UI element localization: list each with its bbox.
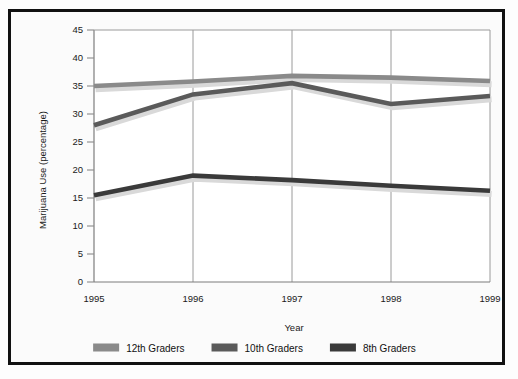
tickmarks-group (87, 30, 94, 282)
line-chart-svg: 051015202530354045 19951996199719981999 … (0, 0, 518, 379)
y-tick-label: 40 (72, 52, 83, 63)
x-tick-label: 1996 (182, 293, 203, 304)
x-tick-label: 1999 (479, 293, 500, 304)
y-axis-title: Marijuana Use (percentage) (37, 111, 48, 229)
x-tick-labels-group: 19951996199719981999 (83, 293, 500, 304)
y-tick-label: 20 (72, 164, 83, 175)
y-tick-labels-group: 051015202530354045 (72, 24, 83, 287)
y-tick-label: 25 (72, 136, 83, 147)
legend-label-1: 12th Graders (126, 343, 184, 354)
x-axis-title: Year (284, 322, 303, 333)
y-tick-label: 5 (78, 248, 83, 259)
y-tick-label: 45 (72, 24, 83, 35)
legend-swatch-3 (330, 344, 356, 352)
legend: 12th Graders10th Graders8th Graders (93, 343, 416, 354)
legend-swatch-2 (212, 344, 238, 352)
x-tick-label: 1995 (83, 293, 104, 304)
y-tick-label: 15 (72, 192, 83, 203)
y-tick-label: 30 (72, 108, 83, 119)
y-tick-label: 10 (72, 220, 83, 231)
x-tick-label: 1998 (380, 293, 401, 304)
chart-figure: 051015202530354045 19951996199719981999 … (0, 0, 518, 379)
y-tick-label: 35 (72, 80, 83, 91)
legend-label-3: 8th Graders (363, 343, 416, 354)
legend-swatch-1 (93, 344, 119, 352)
legend-label-2: 10th Graders (245, 343, 303, 354)
chart-plot-wrapper: 051015202530354045 19951996199719981999 … (0, 0, 518, 379)
x-tick-label: 1997 (281, 293, 302, 304)
y-tick-label: 0 (78, 276, 83, 287)
